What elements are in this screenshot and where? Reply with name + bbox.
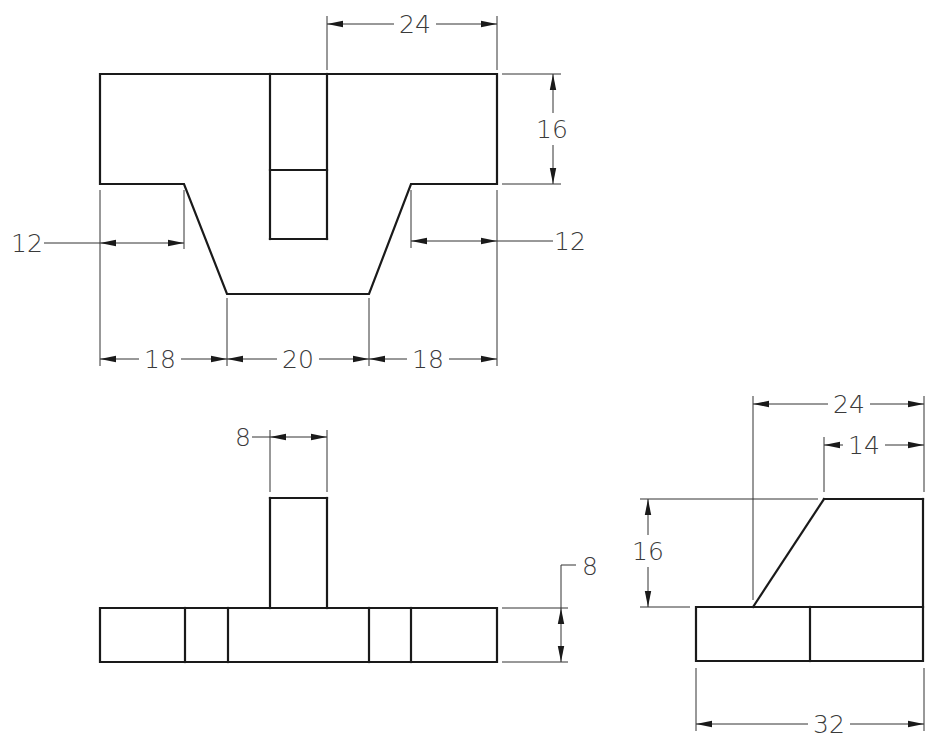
- arrowhead-icon: [753, 401, 769, 407]
- dimension-front-view-base-height-8: 8: [502, 552, 598, 662]
- arrowhead-icon: [168, 240, 184, 246]
- dimension-value: 18: [412, 345, 444, 374]
- arrowhead-icon: [550, 168, 556, 184]
- arrowhead-icon: [227, 356, 243, 362]
- views-layer: [100, 74, 923, 662]
- dimensions-layer: 241612121820188824141632: [11, 10, 924, 739]
- dimension-top-view-bottom-left-18: 18: [100, 190, 227, 374]
- top-view: [100, 74, 497, 294]
- dimension-side-view-height-16: 16: [632, 499, 818, 607]
- arrowhead-icon: [824, 442, 840, 448]
- arrowhead-icon: [645, 591, 651, 607]
- dimension-top-view-bottom-middle-20: 20: [227, 345, 369, 374]
- arrowhead-icon: [550, 74, 556, 90]
- arrowhead-icon: [270, 434, 286, 440]
- arrowhead-icon: [211, 356, 227, 362]
- arrowhead-icon: [481, 238, 497, 244]
- arrowhead-icon: [558, 646, 564, 662]
- side-view: [696, 499, 923, 661]
- arrowhead-icon: [645, 499, 651, 515]
- arrowhead-icon: [369, 356, 385, 362]
- arrowhead-icon: [908, 721, 924, 727]
- arrowhead-icon: [311, 434, 327, 440]
- arrowhead-icon: [696, 721, 712, 727]
- dimension-value: 20: [282, 345, 314, 374]
- engineering-drawing: 241612121820188824141632: [0, 0, 934, 747]
- dimension-top-view-right-12: 12: [411, 190, 586, 256]
- arrowhead-icon: [908, 442, 924, 448]
- dimension-top-view-bottom-right-18: 18: [369, 190, 497, 374]
- dimension-top-view-height-16: 16: [502, 74, 568, 184]
- dimension-leader: [561, 565, 576, 608]
- dimension-value: 16: [632, 537, 664, 566]
- arrowhead-icon: [558, 608, 564, 624]
- top-view-outline: [100, 74, 497, 294]
- arrowhead-icon: [353, 356, 369, 362]
- arrowhead-icon: [327, 21, 343, 27]
- arrowhead-icon: [411, 238, 427, 244]
- dimension-value: 32: [813, 710, 845, 739]
- arrowhead-icon: [908, 401, 924, 407]
- dimension-value: 14: [848, 431, 880, 460]
- dimension-value: 12: [11, 229, 43, 258]
- dimension-top-view-left-12: 12: [11, 190, 184, 258]
- arrowhead-icon: [100, 240, 116, 246]
- dimension-side-view-top-14: 14: [824, 431, 924, 492]
- dimension-side-view-base-width-32: 32: [696, 668, 924, 739]
- arrowhead-icon: [481, 21, 497, 27]
- arrowhead-icon: [481, 356, 497, 362]
- dimension-value: 8: [582, 552, 598, 581]
- dimension-value: 12: [554, 227, 586, 256]
- dimension-value: 24: [833, 390, 865, 419]
- arrowhead-icon: [100, 356, 116, 362]
- dimension-front-view-post-width-8: 8: [235, 423, 327, 492]
- dimension-value: 8: [235, 423, 251, 452]
- front-view: [100, 498, 497, 662]
- dimension-top-view-width-24: 24: [327, 10, 497, 70]
- dimension-value: 16: [536, 115, 568, 144]
- front-view-outline: [100, 608, 497, 662]
- side-view-edge: [753, 499, 824, 607]
- dimension-value: 18: [144, 345, 176, 374]
- dimension-value: 24: [399, 10, 431, 39]
